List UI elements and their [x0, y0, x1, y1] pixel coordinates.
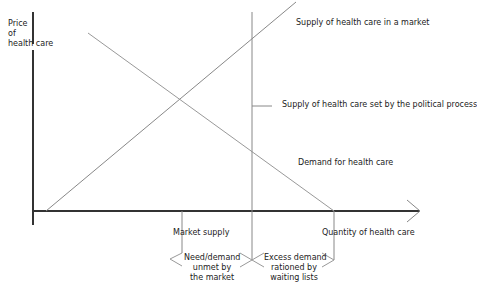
excess-demand-line: Excess demand: [264, 253, 324, 263]
unmet-need-line: unmet by: [184, 263, 240, 273]
unmet-bracket-left: [170, 253, 182, 266]
demand-curve-label: Demand for health care: [298, 158, 393, 168]
unmet-bracket-right: [240, 253, 252, 267]
excess-demand-line: rationed by: [264, 263, 324, 273]
y-axis-label-line: of: [8, 29, 53, 39]
x-axis-label: Quantity of health care: [322, 228, 415, 238]
market-supply-curve-label: Supply of health care in a market: [296, 18, 429, 28]
excess-bracket-left: [252, 253, 264, 267]
y-axis-label-line: health care: [8, 39, 53, 49]
political-supply-label: Supply of health care set by the politic…: [282, 100, 477, 110]
y-axis-label: Price of health care: [8, 19, 53, 49]
unmet-need-label: Need/demand unmet by the market: [184, 253, 240, 283]
y-axis-label-line: Price: [8, 19, 53, 29]
unmet-need-line: the market: [184, 273, 240, 283]
excess-demand-line: waiting lists: [264, 273, 324, 283]
demand-curve: [88, 33, 334, 211]
excess-demand-label: Excess demand rationed by waiting lists: [264, 253, 324, 283]
market-supply-point-label: Market supply: [173, 228, 229, 238]
unmet-need-line: Need/demand: [184, 253, 240, 263]
